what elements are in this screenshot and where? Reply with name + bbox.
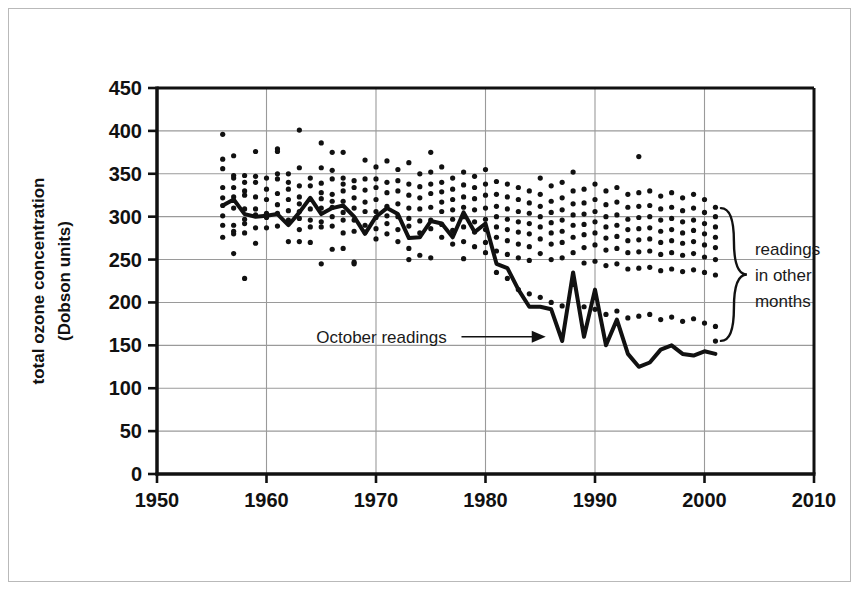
scatter-point: [275, 191, 280, 196]
scatter-point: [231, 153, 236, 158]
scatter-point: [297, 227, 302, 232]
scatter-point: [538, 175, 543, 180]
scatter-point: [483, 205, 488, 210]
scatter-point: [417, 184, 422, 189]
scatter-point: [428, 205, 433, 210]
scatter-point: [538, 192, 543, 197]
scatter-point: [319, 140, 324, 145]
scatter-point: [253, 241, 258, 246]
scatter-point: [330, 199, 335, 204]
scatter-point: [603, 202, 608, 207]
scatter-point: [472, 185, 477, 190]
scatter-point: [362, 157, 367, 162]
scatter-point: [560, 255, 565, 260]
scatter-point: [264, 187, 269, 192]
scatter-point: [275, 202, 280, 207]
scatter-point: [395, 167, 400, 172]
scatter-point: [406, 257, 411, 262]
scatter-point: [505, 252, 510, 257]
scatter-point: [406, 205, 411, 210]
scatter-point: [384, 213, 389, 218]
scatter-point: [308, 206, 313, 211]
scatter-point: [352, 205, 357, 210]
scatter-point: [516, 230, 521, 235]
scatter-point: [625, 238, 630, 243]
scatter-point: [549, 230, 554, 235]
scatter-point: [483, 250, 488, 255]
scatter-point: [702, 231, 707, 236]
scatter-point: [341, 199, 346, 204]
scatter-point: [439, 180, 444, 185]
scatter-point: [417, 195, 422, 200]
scatter-point: [560, 195, 565, 200]
scatter-point: [253, 225, 258, 230]
scatter-point: [603, 312, 608, 317]
scatter-point: [362, 223, 367, 228]
scatter-point: [702, 254, 707, 259]
scatter-point: [341, 217, 346, 222]
scatter-point: [220, 195, 225, 200]
scatter-point: [538, 204, 543, 209]
scatter-point: [406, 224, 411, 229]
scatter-point: [713, 338, 718, 343]
scatter-point: [581, 260, 586, 265]
scatter-point: [220, 166, 225, 171]
scatter-point: [319, 190, 324, 195]
scatter-point: [538, 236, 543, 241]
scatter-point: [352, 261, 357, 266]
scatter-point: [275, 171, 280, 176]
scatter-point: [625, 227, 630, 232]
scatter-point: [450, 207, 455, 212]
scatter-point: [702, 221, 707, 226]
scatter-point: [428, 181, 433, 186]
scatter-point: [538, 295, 543, 300]
scatter-point: [253, 206, 258, 211]
y-axis-tick-label: 50: [120, 420, 142, 442]
scatter-point: [308, 183, 313, 188]
scatter-point: [647, 312, 652, 317]
scatter-point: [647, 188, 652, 193]
scatter-point: [428, 191, 433, 196]
scatter-point: [494, 270, 499, 275]
scatter-point: [592, 242, 597, 247]
scatter-point: [647, 236, 652, 241]
scatter-point: [231, 251, 236, 256]
scatter-point: [527, 258, 532, 263]
scatter-point: [625, 266, 630, 271]
scatter-point: [308, 217, 313, 222]
scatter-point: [450, 217, 455, 222]
scatter-point: [362, 199, 367, 204]
scatter-point: [658, 217, 663, 222]
y-axis-tick-label: 100: [109, 377, 142, 399]
scatter-point: [330, 247, 335, 252]
scatter-point: [647, 225, 652, 230]
scatter-point: [669, 266, 674, 271]
scatter-point: [319, 181, 324, 186]
scatter-point: [669, 238, 674, 243]
scatter-point: [220, 235, 225, 240]
scatter-point: [286, 171, 291, 176]
x-axis-tick-label: 1970: [354, 489, 399, 511]
scatter-point: [373, 164, 378, 169]
scatter-point: [395, 227, 400, 232]
y-axis-tick-label: 400: [109, 120, 142, 142]
scatter-point: [560, 240, 565, 245]
scatter-point: [625, 315, 630, 320]
readings-other-months-label-line: in other: [755, 266, 812, 285]
scatter-point: [691, 239, 696, 244]
scatter-point: [691, 205, 696, 210]
scatter-point: [680, 219, 685, 224]
scatter-point: [373, 236, 378, 241]
scatter-point: [658, 229, 663, 234]
x-axis-tick-label: 1990: [573, 489, 618, 511]
scatter-point: [505, 276, 510, 281]
scatter-point: [691, 251, 696, 256]
scatter-point: [636, 249, 641, 254]
scatter-point: [341, 230, 346, 235]
x-axis-tick-label: 1960: [244, 489, 289, 511]
scatter-point: [352, 195, 357, 200]
scatter-point: [472, 219, 477, 224]
scatter-point: [603, 214, 608, 219]
y-axis-title-line: total ozone concentration: [29, 178, 48, 385]
scatter-point: [286, 239, 291, 244]
